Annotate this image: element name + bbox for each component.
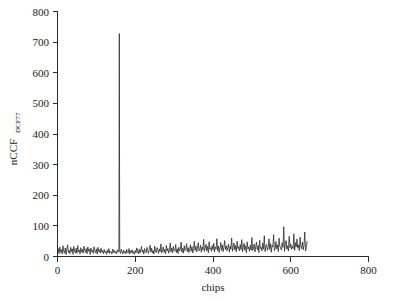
chart-figure: 800 700 600 500 400 300 200 100 0 0 200 … bbox=[0, 0, 397, 300]
y-tick-label: 300 bbox=[33, 159, 50, 171]
x-axis-ticks bbox=[58, 257, 369, 262]
y-axis-title: nCCF DCF77 bbox=[7, 112, 22, 165]
y-axis-tick-labels: 800 700 600 500 400 300 200 100 0 bbox=[33, 6, 50, 263]
x-axis-tick-labels: 0 200 400 600 800 bbox=[55, 264, 378, 276]
y-tick-label: 600 bbox=[33, 67, 50, 79]
data-series-ncff bbox=[58, 34, 308, 255]
y-tick-label: 800 bbox=[33, 6, 50, 18]
x-tick-label: 400 bbox=[205, 264, 222, 276]
x-tick-label: 0 bbox=[55, 264, 61, 276]
x-axis-title: chips bbox=[201, 281, 224, 293]
y-axis-title-main: nCCF bbox=[7, 139, 19, 165]
y-tick-label: 500 bbox=[33, 97, 50, 109]
x-tick-label: 600 bbox=[283, 264, 300, 276]
ncff-dcf77-chips-chart: 800 700 600 500 400 300 200 100 0 0 200 … bbox=[0, 0, 397, 300]
x-tick-label: 800 bbox=[360, 264, 377, 276]
x-tick-label: 200 bbox=[127, 264, 144, 276]
y-tick-label: 0 bbox=[44, 251, 50, 263]
y-tick-label: 400 bbox=[33, 128, 50, 140]
y-axis-title-subscript: DCF77 bbox=[14, 112, 22, 133]
y-axis-ticks bbox=[53, 12, 58, 257]
y-tick-label: 700 bbox=[33, 36, 50, 48]
y-tick-label: 200 bbox=[33, 189, 50, 201]
y-tick-label: 100 bbox=[33, 220, 50, 232]
